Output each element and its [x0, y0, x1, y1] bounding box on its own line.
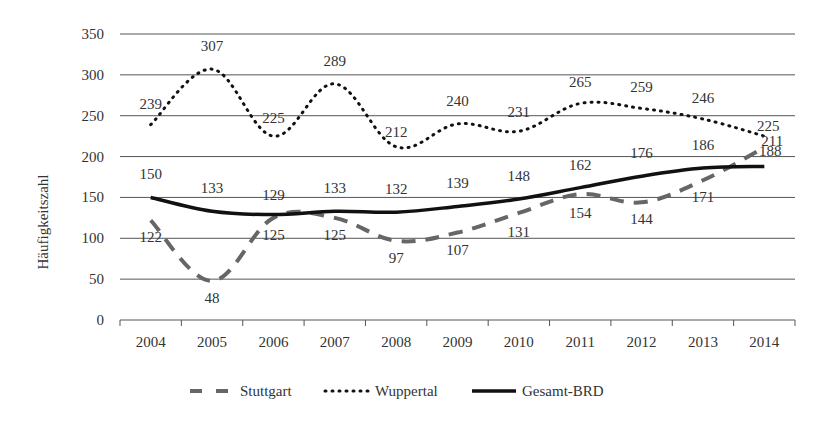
data-label-stuttgart: 122 [139, 229, 162, 245]
data-label-wuppertal: 307 [201, 38, 224, 54]
data-label-stuttgart: 144 [630, 211, 653, 227]
data-label-gesamt-brd: 132 [385, 181, 408, 197]
data-label-stuttgart: 125 [262, 227, 285, 243]
x-tick-label: 2008 [381, 334, 411, 350]
legend-item-wuppertal[interactable]: Wuppertal [325, 383, 438, 399]
data-label-stuttgart: 48 [205, 290, 220, 306]
data-label-wuppertal: 225 [262, 110, 285, 126]
y-tick-label: 300 [82, 67, 105, 83]
y-tick-label: 100 [82, 230, 105, 246]
legend-label: Wuppertal [375, 383, 438, 399]
legend-label: Gesamt-BRD [522, 383, 604, 399]
data-label-stuttgart: 131 [508, 224, 531, 240]
y-axis-label: Häufigkeitszahl [35, 175, 51, 270]
x-tick-label: 2013 [688, 334, 718, 350]
data-label-gesamt-brd: 148 [508, 168, 531, 184]
y-tick-label: 200 [82, 149, 105, 165]
x-tick-label: 2006 [258, 334, 289, 350]
x-tick-label: 2004 [136, 334, 167, 350]
data-label-wuppertal: 239 [139, 96, 162, 112]
data-label-stuttgart: 97 [389, 250, 405, 266]
x-tick-label: 2014 [749, 334, 780, 350]
data-label-wuppertal: 231 [508, 104, 531, 120]
data-label-gesamt-brd: 188 [759, 143, 782, 159]
legend: StuttgartWuppertalGesamt-BRD [190, 383, 604, 399]
legend-label: Stuttgart [240, 383, 292, 399]
data-label-gesamt-brd: 133 [201, 180, 224, 196]
data-label-gesamt-brd: 133 [324, 180, 347, 196]
data-labels: 1224812512597107131154144171211239307225… [139, 38, 783, 306]
data-label-gesamt-brd: 162 [569, 157, 592, 173]
x-tick-label: 2005 [197, 334, 227, 350]
legend-item-stuttgart[interactable]: Stuttgart [190, 383, 292, 399]
data-label-gesamt-brd: 150 [139, 166, 162, 182]
data-label-gesamt-brd: 186 [692, 137, 715, 153]
y-tick-label: 50 [89, 271, 104, 287]
legend-item-gesamt-brd[interactable]: Gesamt-BRD [472, 383, 604, 399]
data-label-stuttgart: 154 [569, 205, 592, 221]
data-label-gesamt-brd: 176 [630, 145, 653, 161]
y-tick-label: 150 [82, 189, 105, 205]
y-tick-label: 350 [82, 26, 105, 42]
data-label-wuppertal: 246 [692, 90, 715, 106]
data-label-wuppertal: 212 [385, 124, 408, 140]
data-label-wuppertal: 259 [630, 79, 653, 95]
x-tick-label: 2010 [504, 334, 534, 350]
x-tick-label: 2009 [443, 334, 473, 350]
data-label-wuppertal: 265 [569, 74, 592, 90]
data-label-gesamt-brd: 129 [262, 187, 285, 203]
data-label-stuttgart: 171 [692, 189, 715, 205]
x-tick-label: 2011 [566, 334, 595, 350]
x-tick-label: 2007 [320, 334, 351, 350]
x-tick-label: 2012 [627, 334, 657, 350]
data-label-stuttgart: 107 [446, 242, 469, 258]
data-label-wuppertal: 240 [446, 93, 469, 109]
line-chart: 0501001502002503003502004200520062007200… [0, 0, 824, 421]
y-tick-label: 250 [82, 108, 105, 124]
data-label-stuttgart: 125 [324, 227, 347, 243]
data-label-gesamt-brd: 139 [446, 175, 469, 191]
y-tick-label: 0 [97, 312, 105, 328]
data-label-wuppertal: 289 [324, 53, 347, 69]
data-label-wuppertal: 225 [757, 118, 780, 134]
